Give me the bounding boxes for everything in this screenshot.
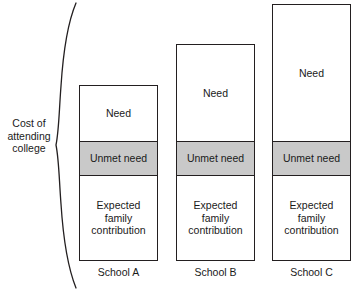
category-label-school-c: School C: [272, 266, 351, 279]
bar-school-b: Need Unmet need Expected family contribu…: [176, 44, 255, 261]
segment-unmet-need-school-a: Unmet need: [80, 142, 157, 176]
category-label-school-a: School A: [79, 266, 158, 279]
segment-need-school-c: Need: [273, 5, 350, 142]
bar-school-a: Need Unmet need Expected family contribu…: [79, 85, 158, 261]
segment-unmet-need-school-c: Unmet need: [273, 142, 350, 176]
segment-expected-family-contribution-school-a: Expected family contribution: [80, 176, 157, 260]
bar-school-c: Need Unmet need Expected family contribu…: [272, 4, 351, 261]
stacked-bar-chart-figure: Cost of attending college Need Unmet nee…: [0, 0, 354, 291]
segment-expected-family-contribution-school-c: Expected family contribution: [273, 176, 350, 260]
segment-need-school-a: Need: [80, 86, 157, 142]
cost-bracket-brace: [54, 0, 80, 291]
axis-label-cost-of-attending-college: Cost of attending college: [0, 117, 58, 155]
segment-unmet-need-school-b: Unmet need: [177, 142, 254, 176]
segment-need-school-b: Need: [177, 45, 254, 142]
segment-expected-family-contribution-school-b: Expected family contribution: [177, 176, 254, 260]
category-label-school-b: School B: [176, 266, 255, 279]
